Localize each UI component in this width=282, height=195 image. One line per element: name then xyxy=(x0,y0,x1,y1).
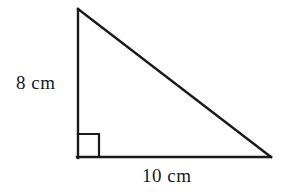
hypotenuse-line xyxy=(78,9,271,157)
horizontal-leg-label: 10 cm xyxy=(142,166,191,185)
right-angle-marker-icon xyxy=(78,134,99,157)
geometry-figure: 8 cm 10 cm xyxy=(0,0,282,195)
right-triangle-drawing xyxy=(0,0,282,195)
vertical-leg-label: 8 cm xyxy=(16,73,55,92)
